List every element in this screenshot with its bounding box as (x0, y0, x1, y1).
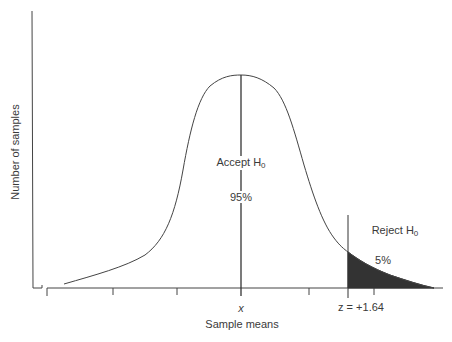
y-axis-label: Number of samples (9, 104, 21, 199)
reject-percent: 5% (375, 254, 391, 266)
mean-tick-label: x (238, 302, 244, 314)
y-axis (32, 11, 42, 288)
accept-text: Accept H (216, 156, 261, 168)
reject-region-label: Reject H0 (372, 224, 419, 238)
critical-value-label: z = +1.64 (338, 301, 384, 313)
normal-distribution-diagram (0, 0, 452, 342)
reject-text: Reject H (372, 224, 414, 236)
accept-percent: 95% (228, 191, 254, 203)
x-axis-ticks (47, 288, 374, 296)
reject-subscript: 0 (414, 229, 418, 238)
x-axis-label: Sample means (205, 318, 278, 330)
accept-subscript: 0 (261, 161, 265, 170)
accept-region-label: Accept H0 (214, 156, 267, 170)
